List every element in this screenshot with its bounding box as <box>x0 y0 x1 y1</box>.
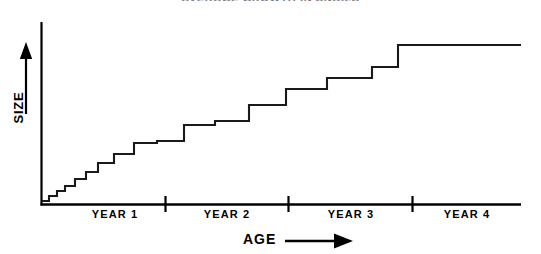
x-axis-label: AGE <box>243 231 276 247</box>
x-axis-label-group: AGE <box>243 229 373 253</box>
x-tick-label-year-1: YEAR 1 <box>92 208 138 220</box>
growth-step-curve <box>42 45 521 201</box>
y-axis-label-group: SIZE <box>2 42 36 170</box>
up-arrow-icon <box>19 42 33 114</box>
growth-chart-figure: AVERAGE GROWTH IN SNAILS SIZE AGE YEAR 1… <box>0 0 541 254</box>
right-arrow-icon <box>285 233 355 249</box>
x-tick-label-year-3: YEAR 3 <box>328 208 374 220</box>
x-tick-label-year-4: YEAR 4 <box>444 208 490 220</box>
x-tick-label-year-2: YEAR 2 <box>204 208 250 220</box>
